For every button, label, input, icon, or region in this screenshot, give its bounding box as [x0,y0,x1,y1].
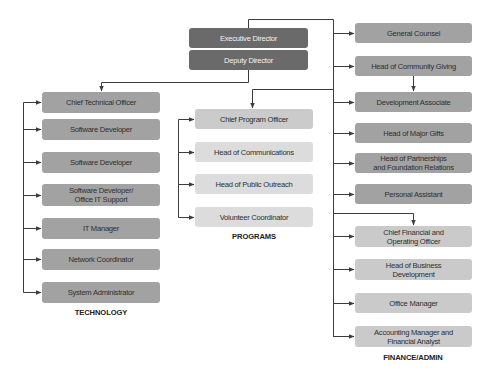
node-development-associate: Development Associate [355,92,472,112]
node-chief-program-officer: Chief Program Officer [195,109,313,129]
group-label-technology: TECHNOLOGY [75,308,128,317]
node-office-manager: Office Manager [355,293,472,313]
node-head-of-business-development: Head of Business Development [355,259,472,280]
node-accounting-manager-financial-analyst: Accounting Manager and Financial Analyst [355,326,472,347]
node-volunteer-coordinator: Volunteer Coordinator [195,207,313,227]
node-software-developer-2: Software Developer [42,152,160,173]
group-label-programs: PROGRAMS [232,232,276,241]
node-software-developer-it-support: Software Developer/ Office IT Support [42,184,160,206]
node-chief-financial-operating-officer: Chief Financial and Operating Officer [355,226,472,247]
node-head-of-public-outreach: Head of Public Outreach [195,174,313,194]
node-head-of-partnerships: Head of Partnerships and Foundation Rela… [355,153,472,173]
node-personal-assistant: Personal Assistant [355,184,472,204]
node-deputy-director: Deputy Director [189,50,308,70]
node-executive-director: Executive Director [189,28,308,48]
node-system-administrator: System Administrator [42,282,160,303]
node-network-coordinator: Network Coordinator [42,249,160,270]
node-chief-technical-officer: Chief Technical Officer [42,92,160,113]
node-general-counsel: General Counsel [355,23,472,43]
node-head-of-major-gifts: Head of Major Gifts [355,123,472,143]
node-it-manager: IT Manager [42,218,160,239]
node-head-of-community-giving: Head of Community Giving [355,56,472,76]
node-software-developer-1: Software Developer [42,119,160,140]
node-head-of-communications: Head of Communications [195,142,313,162]
group-label-finance-admin: FINANCE/ADMIN [383,353,442,362]
